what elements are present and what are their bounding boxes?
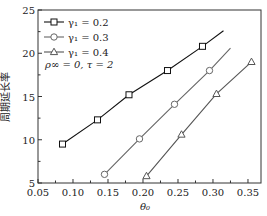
x-tick-label: 0.25: [167, 187, 189, 198]
x-tick-label: 0.35: [237, 187, 259, 198]
legend-item-label: γ₁ = 0.4: [68, 47, 109, 58]
x-tick-label: 0.10: [62, 187, 84, 198]
y-axis-label: 周期延长率: [0, 72, 11, 122]
y-tick-label: 20: [22, 48, 35, 59]
legend-item-label: γ₁ = 0.2: [68, 17, 109, 28]
legend-item-label: γ₁ = 0.3: [68, 32, 109, 43]
x-axis-label: θ₀: [140, 201, 150, 212]
chart-svg: 0.050.100.150.200.250.300.35510152025θ₀周…: [0, 0, 267, 216]
x-tick-label: 0.15: [97, 187, 119, 198]
y-tick-label: 10: [22, 135, 35, 146]
y-tick-label: 25: [22, 5, 35, 16]
x-tick-label: 0.30: [202, 187, 224, 198]
legend: γ₁ = 0.2γ₁ = 0.3γ₁ = 0.4: [44, 17, 109, 58]
x-tick-label: 0.20: [132, 187, 154, 198]
y-tick-label: 5: [29, 178, 35, 189]
y-tick-label: 15: [22, 92, 35, 103]
chart-annotation: ρ∞ = 0, τ = 2: [44, 59, 113, 70]
line-chart: 0.050.100.150.200.250.300.35510152025θ₀周…: [0, 0, 267, 216]
